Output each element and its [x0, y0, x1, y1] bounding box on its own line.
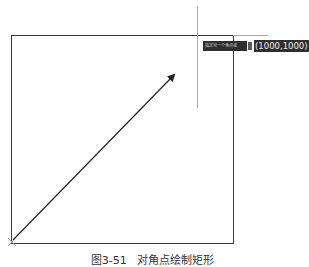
- crosshair-horizontal-line: [233, 35, 268, 36]
- start-point-x-marker-icon: [8, 238, 16, 246]
- command-prompt: 指定另一个角点或: [203, 41, 247, 51]
- figure-caption: 图3-51 对角点绘制矩形: [0, 251, 305, 267]
- dynamic-input-tooltip: 指定另一个角点或 (1000,1000): [203, 41, 309, 51]
- dropdown-icon[interactable]: [248, 42, 252, 50]
- coordinate-input[interactable]: (1000,1000): [254, 40, 309, 52]
- direction-arrow: [13, 75, 174, 240]
- crosshair-vertical-line: [197, 6, 198, 108]
